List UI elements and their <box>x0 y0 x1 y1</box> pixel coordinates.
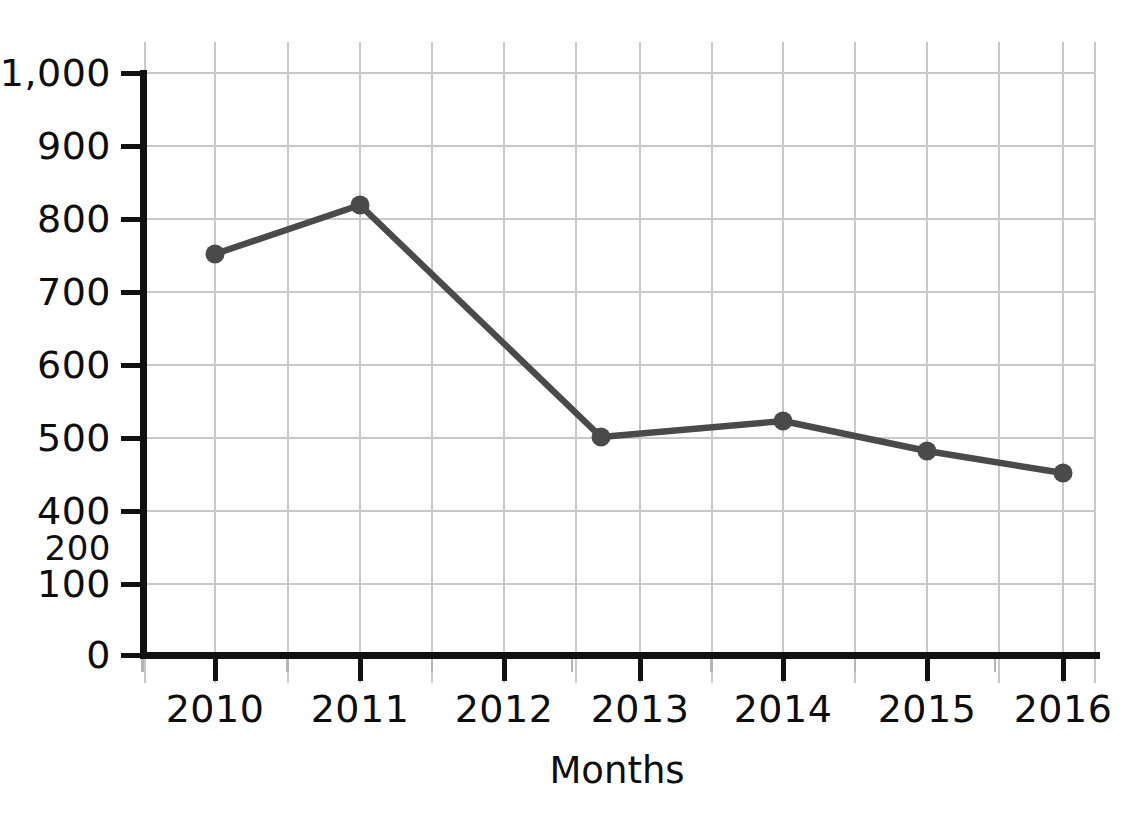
y-axis-tick-label: 0 <box>86 633 111 677</box>
x-axis-tick-label: 2012 <box>455 687 554 731</box>
x-axis-tick-label: 2013 <box>591 687 690 731</box>
x-axis-tick-label: 2010 <box>166 687 265 731</box>
line-chart-figure: 1,0009008007006005004002001000 201020112… <box>0 0 1135 816</box>
x-axis-tick-label: 2014 <box>734 687 833 731</box>
data-point-marker <box>206 245 225 264</box>
data-point-marker <box>592 428 611 447</box>
y-axis-tick-label: 1,000 <box>0 51 111 95</box>
chart-canvas: 1,0009008007006005004002001000 201020112… <box>0 0 1135 816</box>
y-axis-tick-label: 500 <box>37 416 111 460</box>
data-point-marker <box>774 412 793 431</box>
x-axis-title: Months <box>549 749 684 792</box>
x-axis-tick-label: 2015 <box>878 687 977 731</box>
data-point-marker <box>918 442 937 461</box>
y-axis-tick-label: 900 <box>37 124 111 168</box>
data-point-marker <box>351 196 370 215</box>
data-point-marker <box>1054 464 1073 483</box>
y-axis-tick-label: 800 <box>37 197 111 241</box>
y-axis-tick-label: 700 <box>37 270 111 314</box>
x-axis-tick-label: 2016 <box>1014 687 1113 731</box>
y-axis-tick-label: 100 <box>37 562 111 606</box>
y-axis-tick-label: 400 <box>37 489 111 533</box>
y-axis-tick-label: 600 <box>37 343 111 387</box>
x-axis-tick-label: 2011 <box>311 687 410 731</box>
